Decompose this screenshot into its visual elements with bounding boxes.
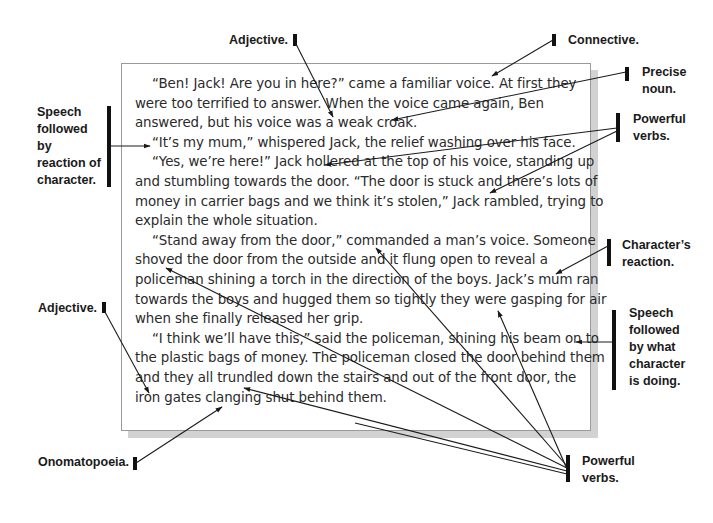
label-line: Adjective. [38,300,97,317]
label-speech-reaction: Speech followed by reaction of character… [37,104,101,189]
label-marker [102,302,106,313]
label-line: Speech [629,305,685,322]
label-line: verbs. [633,128,686,145]
label-line: by what [629,339,685,356]
label-powerful-verbs-bottom: Powerful verbs. [582,453,635,487]
story-line: towards the boys and hugged them so tigh… [135,290,585,310]
label-line: Connective. [568,32,639,49]
story-line: policeman shining a torch in the directi… [135,270,585,290]
label-marker [107,106,111,187]
label-marker [566,455,570,482]
label-line: Character’s [622,237,691,254]
label-marker [133,457,137,470]
story-line: shoved the door from the outside and it … [135,250,585,270]
story-line: “Ben! Jack! Are you in here?” came a fam… [135,74,585,94]
label-powerful-verbs-top: Powerful verbs. [633,111,686,145]
story-line: iron gates clanging shut behind them. [135,388,585,408]
label-line: followed [37,121,101,138]
label-line: Powerful [633,111,686,128]
label-marker [612,310,616,390]
label-line: verbs. [582,470,635,487]
story-line: “Stand away from the door,” commanded a … [135,231,585,251]
label-marker [293,34,297,46]
label-adjective-top: Adjective. [229,32,288,49]
label-line: noun. [642,81,686,98]
label-line: is doing. [629,373,685,390]
story-line: “It’s my mum,” whispered Jack, the relie… [135,133,585,153]
label-onomatopoeia: Onomatopoeia. [38,454,129,471]
label-line: Speech [37,104,101,121]
story-line: were too terrified to answer. When the v… [135,94,585,114]
story-line: and they all trundled down the stairs an… [135,368,585,388]
label-line: Precise [642,64,686,81]
label-line: character. [37,172,101,189]
label-speech-doing: Speech followed by what character is doi… [629,305,685,390]
story-line: when she finally released her grip. [135,309,585,329]
annotated-story-diagram: “Ben! Jack! Are you in here?” came a fam… [0,0,713,523]
story-text: “Ben! Jack! Are you in here?” came a fam… [135,74,585,407]
story-line: explain the whole situation. [135,211,585,231]
story-line: “Yes, we’re here!” Jack hollered at the … [135,152,585,172]
label-line: followed [629,322,685,339]
label-line: character [629,356,685,373]
label-line: reaction. [622,254,691,271]
label-marker [552,34,556,46]
label-line: Adjective. [229,32,288,49]
label-line: Powerful [582,453,635,470]
label-precise-noun: Precise noun. [642,64,686,98]
label-line: Onomatopoeia. [38,454,129,471]
label-marker [616,113,620,142]
label-line: reaction of [37,155,101,172]
label-marker [625,67,629,81]
story-line: money in carrier bags and we think it’s … [135,192,585,212]
label-adjective-left: Adjective. [38,300,97,317]
story-line: and stumbling towards the door. “The doo… [135,172,585,192]
label-characters-reaction: Character’s reaction. [622,237,691,271]
label-line: by [37,138,101,155]
story-line: “I think we’ll have this,” said the poli… [135,329,585,349]
label-connective: Connective. [568,32,639,49]
story-line: answered, but his voice was a weak croak… [135,113,585,133]
label-marker [607,239,611,266]
story-line: the plastic bags of money. The policeman… [135,348,585,368]
